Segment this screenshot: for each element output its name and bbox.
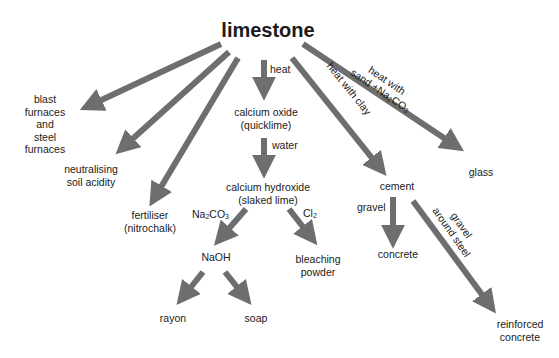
node-rayon: rayon [160, 312, 186, 325]
node-neutralising: neutralising soil acidity [64, 163, 118, 188]
neutralising-line2: soil acidity [64, 176, 118, 189]
arrow-naoh-rayon [187, 272, 203, 292]
node-bleaching-powder: bleaching powder [296, 253, 341, 278]
bleaching-powder-line2: powder [296, 266, 341, 279]
condition-na2co3: Na2CO3 [192, 208, 229, 220]
reinforced-concrete-line1: reinforced [497, 318, 544, 331]
blast-furnaces-line4: steel [25, 131, 65, 144]
condition-gravel: gravel [357, 201, 386, 213]
fertiliser-line1: fertiliser [124, 209, 176, 222]
blast-furnaces-line2: furnaces [25, 106, 65, 119]
blast-furnaces-line5: furnaces [25, 143, 65, 156]
condition-water: water [272, 139, 298, 151]
fertiliser-line2: (nitrochalk) [124, 222, 176, 235]
node-blast-furnaces: blast furnaces and steel furnaces [25, 93, 65, 156]
bleaching-powder-line1: bleaching [296, 253, 341, 266]
blast-furnaces-line3: and [25, 118, 65, 131]
node-glass: glass [469, 166, 494, 179]
node-cement: cement [380, 180, 414, 193]
neutralising-line1: neutralising [64, 163, 118, 176]
blast-furnaces-line1: blast [25, 93, 65, 106]
calcium-oxide-line1: calcium oxide [234, 106, 298, 119]
reinforced-concrete-line2: concrete [497, 331, 544, 344]
node-soap: soap [245, 312, 268, 325]
condition-heat: heat [270, 63, 290, 75]
arrow-naoh-soap [225, 272, 241, 292]
node-calcium-hydroxide: calcium hydroxide (slaked lime) [226, 181, 310, 206]
node-limestone: limestone [221, 19, 314, 41]
node-calcium-oxide: calcium oxide (quicklime) [234, 106, 298, 131]
node-naoh: NaOH [201, 251, 230, 264]
calcium-hydroxide-line2: (slaked lime) [226, 194, 310, 207]
node-fertiliser: fertiliser (nitrochalk) [124, 209, 176, 234]
node-concrete: concrete [378, 248, 418, 261]
calcium-hydroxide-line1: calcium hydroxide [226, 181, 310, 194]
node-reinforced-concrete: reinforced concrete [497, 318, 544, 343]
calcium-oxide-line2: (quicklime) [234, 119, 298, 132]
condition-cl2: Cl2 [303, 207, 317, 219]
